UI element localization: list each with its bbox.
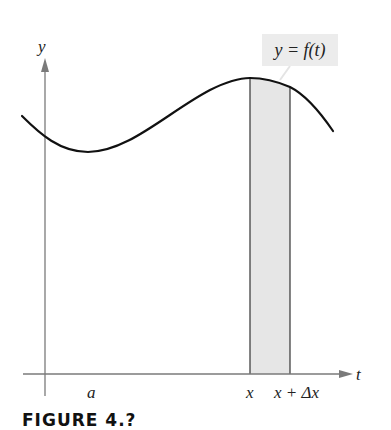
callout-pointer — [280, 66, 290, 80]
function-label: y = f(t) — [274, 40, 325, 61]
y-axis-label: y — [38, 38, 46, 55]
tick-label-x-plus-dx: x + Δx — [274, 384, 319, 401]
t-axis-arrow-icon — [339, 370, 353, 378]
function-label-callout: y = f(t) — [262, 34, 338, 66]
tick-label-x: x — [246, 384, 254, 401]
figure-caption: FIGURE 4.? — [22, 410, 136, 430]
y-axis-arrow-icon — [41, 58, 49, 72]
shaded-strip — [250, 78, 290, 374]
t-axis-label: t — [356, 366, 361, 383]
tick-label-a: a — [87, 384, 96, 401]
